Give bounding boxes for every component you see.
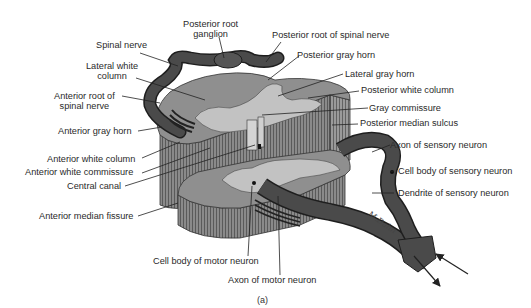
label-lateral-gray-horn: Lateral gray horn <box>345 69 414 79</box>
label-cell-body-of-motor-neuron: Cell body of motor neuron <box>153 256 259 266</box>
label-anterior-median-fissure: Anterior median fissure <box>39 211 133 221</box>
label-posterior-root-ganglion: Posterior root ganglion <box>183 19 238 39</box>
label-anterior-root: Anterior root of spinal nerve <box>54 91 115 111</box>
label-lateral-white-column-line1: Lateral white <box>86 61 138 71</box>
label-lateral-white-column-line2: column <box>86 71 138 81</box>
label-anterior-gray-horn: Anterior gray horn <box>58 126 132 136</box>
label-axon-of-sensory-neuron: Axon of sensory neuron <box>390 140 487 150</box>
label-posterior-gray-horn: Posterior gray horn <box>297 50 375 60</box>
label-dendrite-of-sensory-neuron: Dendrite of sensory neuron <box>398 188 509 198</box>
label-anterior-white-commissure: Anterior white commissure <box>25 167 133 177</box>
label-posterior-root-of-spinal-nerve: Posterior root of spinal nerve <box>272 30 389 40</box>
label-posterior-root-ganglion-line2: ganglion <box>183 29 238 39</box>
label-anterior-root-line2: spinal nerve <box>54 101 115 111</box>
label-anterior-root-line1: Anterior root of <box>54 91 115 101</box>
label-cell-body-of-sensory-neuron: Cell body of sensory neuron <box>398 166 512 176</box>
label-axon-of-motor-neuron: Axon of motor neuron <box>228 275 316 285</box>
label-central-canal: Central canal <box>67 181 121 191</box>
label-spinal-nerve: Spinal nerve <box>96 40 147 50</box>
label-posterior-median-sulcus: Posterior median sulcus <box>360 118 458 128</box>
label-anterior-white-column: Anterior white column <box>47 154 135 164</box>
label-lateral-white-column: Lateral white column <box>86 61 138 81</box>
label-posterior-white-column: Posterior white column <box>361 85 454 95</box>
label-gray-commissure: Gray commissure <box>369 103 441 113</box>
spinal-cord-diagram: Posterior root ganglion Spinal nerve Lat… <box>0 0 531 308</box>
figure-caption: (a) <box>257 295 268 305</box>
label-posterior-root-ganglion-line1: Posterior root <box>183 19 238 29</box>
